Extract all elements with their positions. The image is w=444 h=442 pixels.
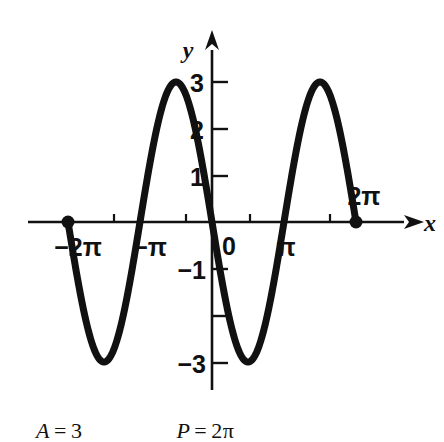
origin-label: 0: [222, 232, 236, 260]
period-caption: P=2π: [152, 392, 234, 442]
period-value: 2π: [211, 418, 234, 442]
caption-row: A=3 P=2π: [0, 392, 444, 442]
x-axis-label: x: [423, 210, 436, 236]
amplitude-variable: A: [36, 418, 50, 442]
amplitude-caption: A=3: [12, 392, 82, 442]
y-tick-label-3: 3: [190, 69, 204, 97]
y-tick-label-1: 1: [190, 163, 204, 191]
x-tick-label-minus-2pi: −2π: [54, 233, 102, 261]
period-equals: =: [190, 418, 211, 442]
x-tick-label-2pi: 2π: [347, 182, 380, 210]
amplitude-value: 3: [71, 418, 83, 442]
y-axis-label: y: [180, 37, 194, 63]
y-tick-label-2: 2: [190, 116, 204, 144]
endpoint-dot-2pi: [350, 216, 363, 229]
x-axis-arrowhead: [404, 215, 424, 229]
x-tick-label-minus-pi: −π: [133, 233, 167, 261]
amplitude-equals: =: [50, 418, 71, 442]
x-tick-label-pi: π: [276, 233, 295, 261]
y-tick-label-minus-3: −3: [177, 350, 206, 378]
period-variable: P: [176, 418, 190, 442]
y-axis-arrowhead: [205, 30, 219, 50]
y-tick-label-minus-1: −1: [177, 256, 206, 284]
endpoint-dot-minus-2pi: [62, 216, 75, 229]
